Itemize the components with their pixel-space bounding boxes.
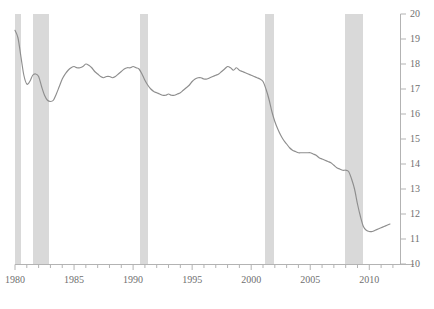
x-tick-label: 1990 bbox=[113, 275, 153, 285]
y-tick-label: 18 bbox=[410, 59, 420, 69]
y-tick-label: 12 bbox=[410, 209, 420, 219]
x-tick-label: 1995 bbox=[172, 275, 212, 285]
y-tick-label: 19 bbox=[410, 34, 420, 44]
x-tick-label: 1985 bbox=[54, 275, 94, 285]
x-tick-label: 1980 bbox=[0, 275, 35, 285]
chart-container: 1011121314151617181920 19801985199019952… bbox=[0, 0, 434, 309]
x-tick-label: 2005 bbox=[290, 275, 330, 285]
y-tick-label: 17 bbox=[410, 84, 420, 94]
y-tick-label: 11 bbox=[410, 234, 420, 244]
x-tick-label: 2000 bbox=[231, 275, 271, 285]
y-tick-label: 13 bbox=[410, 184, 420, 194]
y-tick-label: 10 bbox=[410, 259, 420, 269]
x-tick-label: 2010 bbox=[349, 275, 389, 285]
axes-svg bbox=[0, 0, 434, 309]
y-tick-label: 14 bbox=[410, 159, 420, 169]
y-tick-label: 20 bbox=[410, 9, 420, 19]
y-tick-label: 15 bbox=[410, 134, 420, 144]
y-tick-label: 16 bbox=[410, 109, 420, 119]
